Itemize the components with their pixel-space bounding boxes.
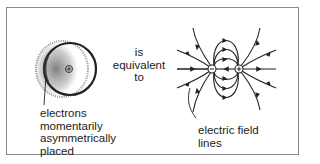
- positive-charge-icon: [235, 65, 243, 73]
- electrons-label-line: momentarily: [40, 120, 116, 133]
- negative-charge-icon: [208, 65, 216, 73]
- electrons-label-line: asymmetrically: [40, 132, 116, 145]
- field-lines-label-line: electric field: [198, 124, 259, 137]
- electrons-label-line: electrons: [40, 107, 116, 120]
- dipole-field-diagram: [177, 28, 276, 118]
- field-lines-label: electric field lines: [198, 124, 259, 149]
- electrons-label-line: placed: [40, 145, 116, 158]
- equivalence-text: is equivalent to: [108, 46, 170, 84]
- electrons-label: electrons momentarily asymmetrically pla…: [40, 107, 116, 157]
- field-lines-label-line: lines: [198, 137, 259, 150]
- atom-illustration: [34, 41, 96, 105]
- electron-cloud: [34, 42, 78, 96]
- equivalence-line: to: [108, 71, 170, 84]
- equivalence-line: equivalent: [108, 59, 170, 72]
- equivalence-line: is: [108, 46, 170, 59]
